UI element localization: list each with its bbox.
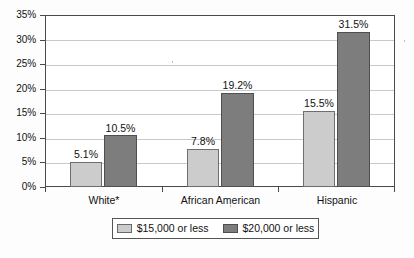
bar-white-20000 (104, 135, 137, 187)
bar-chart: 35% 30% 25% 20% 15% 10% 5% 0% 5.1% 10.5%… (0, 0, 414, 258)
bar-value-white-15000: 5.1% (60, 149, 112, 160)
y-tick-label-30: 30% (2, 35, 36, 45)
legend-item-15000[interactable]: $15,000 or less (117, 223, 209, 234)
y-axis: 35% 30% 25% 20% 15% 10% 5% 0% (0, 15, 36, 187)
bar-value-hispanic-15000: 15.5% (293, 98, 345, 109)
x-category-label-white: White* (63, 194, 145, 206)
bar-value-african-american-20000: 19.2% (211, 80, 264, 91)
bar-value-white-20000: 10.5% (94, 123, 147, 134)
x-category-label-african-american: African American (165, 194, 276, 206)
legend-swatch-icon-20000 (223, 224, 238, 233)
x-category-label-hispanic: Hispanic (295, 194, 379, 206)
y-tick-mark-5 (40, 162, 45, 163)
bar-hispanic-15000 (303, 111, 335, 187)
y-tick-mark-15 (40, 113, 45, 114)
y-tick-label-20: 20% (2, 84, 36, 94)
y-tick-mark-30 (40, 40, 45, 41)
x-tick-mark-3 (394, 187, 395, 192)
y-tick-mark-10 (40, 138, 45, 139)
y-tick-label-35: 35% (2, 10, 36, 20)
scan-speck (172, 61, 173, 63)
bar-value-hispanic-20000: 31.5% (327, 19, 380, 30)
y-tick-label-5: 5% (2, 157, 36, 167)
bar-value-african-american-15000: 7.8% (177, 136, 229, 147)
chart-legend: $15,000 or less $20,000 or less (112, 218, 319, 239)
y-tick-label-15: 15% (2, 108, 36, 118)
x-tick-mark-0 (45, 187, 46, 192)
y-tick-mark-35 (40, 15, 45, 16)
legend-label-15000: $15,000 or less (137, 223, 209, 234)
x-tick-mark-1 (162, 187, 163, 192)
legend-label-20000: $20,000 or less (243, 223, 315, 234)
bar-african-american-15000 (187, 149, 219, 187)
y-tick-mark-20 (40, 89, 45, 90)
scan-speck (404, 40, 405, 42)
x-tick-mark-2 (278, 187, 279, 192)
y-tick-label-0: 0% (2, 182, 36, 192)
bar-white-15000 (70, 162, 102, 187)
y-tick-mark-25 (40, 64, 45, 65)
y-tick-label-10: 10% (2, 133, 36, 143)
legend-swatch-icon-15000 (117, 224, 132, 233)
bar-hispanic-20000 (337, 32, 370, 187)
y-tick-label-25: 25% (2, 59, 36, 69)
legend-item-20000[interactable]: $20,000 or less (223, 223, 315, 234)
scan-speck (230, 205, 231, 207)
